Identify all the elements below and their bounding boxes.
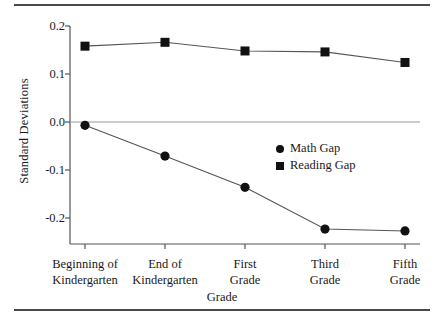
square-marker-icon	[276, 162, 284, 170]
chart-legend: Math Gap Reading Gap	[276, 140, 356, 174]
legend-entry-math-gap: Math Gap	[276, 140, 356, 157]
y-axis-title: Standard Deviations	[17, 78, 31, 184]
legend-label-math-gap: Math Gap	[290, 140, 340, 157]
y-axis-title-wrap: Standard Deviations	[14, 36, 32, 226]
x-tick-label-4-line-0: Fifth	[350, 256, 444, 272]
series-math-gap-point-4	[400, 226, 409, 235]
x-tick-label-4: Fifth Grade	[350, 256, 444, 288]
series-math-gap-point-1	[160, 151, 169, 160]
series-reading-gap-point-4	[401, 58, 410, 67]
series-reading-gap-point-0	[81, 42, 90, 51]
series-math-gap-point-3	[320, 224, 329, 233]
series-reading-gap-point-3	[321, 47, 330, 56]
series-reading-gap-point-1	[161, 38, 170, 47]
figure: 0.2 0.1 0.0 -0.1 -0.2 Standard Deviation…	[0, 0, 444, 325]
legend-label-reading-gap: Reading Gap	[290, 157, 356, 174]
series-line-math-gap	[85, 125, 405, 231]
x-tick-label-4-line-1: Grade	[350, 272, 444, 288]
y-tick-label-0: 0.2	[25, 20, 65, 33]
circle-marker-icon	[276, 145, 284, 153]
legend-entry-reading-gap: Reading Gap	[276, 157, 356, 174]
series-math-gap-point-0	[80, 121, 89, 130]
series-reading-gap-point-2	[241, 46, 250, 55]
x-axis-title: Grade	[0, 290, 444, 305]
series-math-gap-point-2	[240, 183, 249, 192]
